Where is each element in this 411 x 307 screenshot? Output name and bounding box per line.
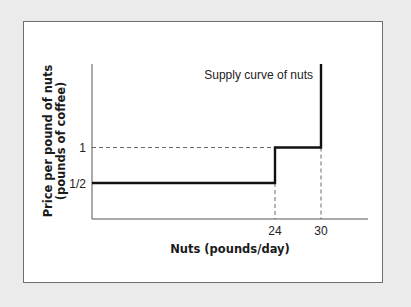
y-axis-label-line2: (pounds of coffee) (54, 82, 68, 201)
x-axis-label: Nuts (pounds/day) (170, 242, 290, 256)
y-axis-label-line1: Price per pound of nuts (41, 64, 55, 217)
y-tick-half: 1/2 (69, 177, 86, 191)
supply-curve-label: Supply curve of nuts (204, 68, 313, 82)
supply-chart: Supply curve of nuts 1 1/2 24 30 Nuts (p… (0, 0, 411, 307)
y-tick-1: 1 (79, 141, 86, 155)
y-axis-label: Price per pound of nuts (pounds of coffe… (41, 64, 68, 217)
x-tick-24: 24 (268, 224, 282, 238)
x-tick-30: 30 (314, 224, 328, 238)
